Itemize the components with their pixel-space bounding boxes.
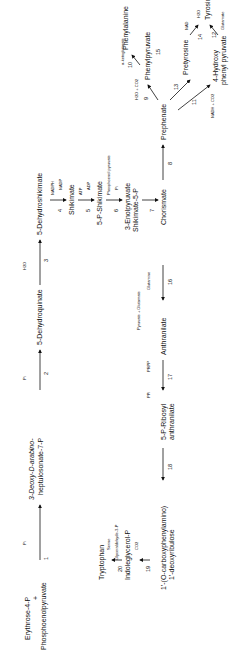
svg-text:Phosphoenol pyruvate: Phosphoenol pyruvate [106,154,111,195]
svg-text:7: 7 [149,209,155,212]
hydroxyphenylpyruvate-label: 4-Hydroxy [212,50,220,82]
pathway-diagram: Erythrose-4-P + Phosphoenolpyruvate 1 Pi… [0,0,245,652]
svg-text:ATP: ATP [78,187,83,195]
svg-text:12: 12 [211,32,217,38]
svg-text:Pi: Pi [22,541,27,545]
shikimate-label: Shikimate [68,184,75,215]
p-shikimate-label: 5-P-Shikimate [96,181,103,225]
svg-text:19: 19 [145,566,151,572]
svg-text:phenyl pyruvate: phenyl pyruvate [220,35,228,85]
svg-text:17: 17 [167,374,173,380]
svg-text:H2O: H2O [22,262,27,270]
phenylpyruvate-label: Phenylpyruvate [144,32,152,80]
svg-text:Serine: Serine [106,538,111,550]
svg-text:Glutamate: Glutamate [220,11,225,30]
svg-text:Glutamine: Glutamine [146,271,151,290]
svg-text:Pi: Pi [114,186,119,190]
svg-text:18: 18 [167,464,173,470]
svg-text:NAD: NAD [184,21,189,30]
svg-text:Pyruvate + Glutamate: Pyruvate + Glutamate [136,290,141,330]
svg-text:11: 11 [191,99,197,105]
svg-text:NADP: NADP [58,179,63,190]
svg-text:8: 8 [167,162,173,165]
svg-text:14: 14 [197,34,203,40]
cdrp-label: 1'-(O-carboxyphenylamino) [160,506,168,590]
svg-text:6: 6 [113,209,119,212]
svg-text:ADP: ADP [86,181,91,190]
svg-text:Shikimate-5-P: Shikimate-5-P [132,188,139,232]
tyrosine-label: Tyrosine [204,0,212,20]
svg-text:PPi: PPi [146,392,151,398]
svg-text:Glyceraldehyde-3-P: Glyceraldehyde-3-P [114,524,119,560]
svg-text:+: + [32,596,39,600]
svg-text:NADH + CO2: NADH + CO2 [210,93,215,118]
dehydroquinate-label: 5-Dehydroquinate [36,289,44,345]
enolpyruvate-label: 3-Enolpyruvate [124,183,132,230]
svg-text:5: 5 [85,209,91,212]
svg-text:16: 16 [167,279,173,285]
svg-text:1'-deoxyribulose: 1'-deoxyribulose [168,529,176,580]
svg-text:NADPH: NADPH [50,181,55,195]
ribosyl-anthranilate-label: 5-P-Ribosyl [160,403,168,440]
indoleglycerol-p-label: Indoleglycerol-P [124,529,132,580]
svg-text:4: 4 [57,209,63,212]
svg-text:1: 1 [43,557,49,560]
phe-tyr-branch: 9 H2O + CO2 Phenylpyruvate 10 α-ketoglut… [120,0,228,118]
svg-text:anthranilate: anthranilate [168,403,175,440]
erythrose-4-p-label: Erythrose-4-P [24,596,32,640]
svg-text:CO2: CO2 [134,541,139,550]
svg-text:H2O + CO2: H2O + CO2 [134,78,139,100]
svg-text:13: 13 [173,84,179,90]
svg-text:Pi: Pi [22,376,27,380]
chorismate-label: Chorismate [160,189,167,225]
svg-text:9: 9 [143,97,149,100]
prephenate-label: Prephenate [160,104,168,140]
svg-text:15: 15 [155,49,161,55]
trp-branch: 16 Glutamine Pyruvate + Glutamate Anthra… [98,265,176,590]
svg-text:3: 3 [43,259,49,262]
svg-text:PRPP: PRPP [146,361,151,372]
pep-label: Phosphoenolpyruvate [40,582,48,650]
svg-text:heptulosonate-7-P: heptulosonate-7-P [37,437,45,495]
svg-text:10: 10 [127,62,133,68]
phenylalanine-label: Phenylalanine [122,6,130,50]
tryptophan-label: Tryptophan [98,545,106,580]
dahp-label: 3-Deoxy-D-arabino- [28,438,36,500]
anthranilate-label: Anthranilate [160,318,167,355]
dehydroshikimate-label: 5-Dehydroshikimate [36,173,44,235]
svg-text:20: 20 [117,566,123,572]
svg-text:H2O: H2O [196,10,201,18]
svg-text:2: 2 [43,372,49,375]
pretyrosine-label: Pretyrosine [182,39,190,75]
